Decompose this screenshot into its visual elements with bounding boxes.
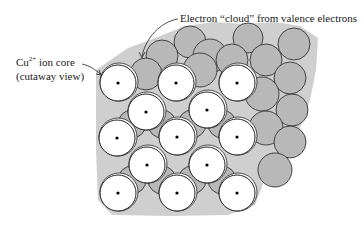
nucleus-dot [205, 108, 208, 111]
nucleus-dot [144, 110, 147, 113]
nucleus-dot [116, 81, 119, 84]
nucleus-dot [235, 135, 238, 138]
cloud-label: Electron “cloud” from valence electrons [180, 12, 357, 25]
ion-core-label: Cu2+ ion core [16, 56, 75, 69]
nucleus-dot [235, 191, 238, 194]
nucleus-dot [174, 81, 177, 84]
ion-core-suffix: ion core [36, 56, 74, 68]
nucleus-dot [235, 81, 238, 84]
nucleus-dot [175, 191, 178, 194]
nucleus-dot [175, 135, 178, 138]
ion-core-prefix: Cu [16, 56, 29, 68]
nucleus-dot [145, 163, 148, 166]
nucleus-dot [116, 191, 119, 194]
copper-lattice-diagram [0, 0, 364, 226]
nucleus-dot [205, 163, 208, 166]
ion-cores [99, 63, 257, 211]
nucleus-dot [115, 136, 118, 139]
cutaway-label: (cutaway view) [16, 70, 84, 83]
